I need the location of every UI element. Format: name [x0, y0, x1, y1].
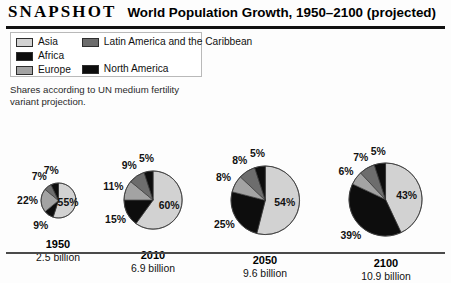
legend-swatch-africa	[16, 52, 33, 61]
pie-label-africa-2050: 25%	[214, 219, 235, 230]
header-rule	[6, 26, 445, 29]
legend-label-europe: Europe	[38, 64, 71, 76]
pie-1950: 55%9%22%7%7%	[39, 181, 78, 220]
caption-year-1950: 1950	[36, 238, 80, 251]
pie-label-north-america-1950: 7%	[44, 165, 59, 176]
pie-label-africa-2100: 39%	[341, 230, 362, 241]
legend-item-africa: Africa	[16, 50, 71, 63]
pie-caption-1950: 19502.5 billion	[36, 238, 80, 264]
pie-label-europe-2010: 11%	[103, 180, 123, 191]
pie-caption-2100: 210010.9 billion	[361, 257, 411, 283]
pie-chart-2050: 54%25%8%8%5%20509.6 billion	[229, 164, 302, 237]
caption-population-2010: 6.9 billion	[131, 262, 175, 275]
pie-label-africa-2010: 15%	[105, 214, 126, 225]
legend-item-europe: Europe	[16, 64, 71, 77]
pie-caption-2050: 20509.6 billion	[243, 254, 287, 280]
legend-swatch-north-america	[82, 65, 99, 74]
pie-label-latin-america-2010: 9%	[122, 160, 137, 171]
pie-label-europe-1950: 22%	[17, 195, 38, 206]
legend-swatch-asia	[16, 38, 33, 47]
pie-label-latin-america-2100: 7%	[353, 152, 368, 163]
pie-label-north-america-2050: 5%	[250, 148, 265, 159]
legend-swatch-europe	[16, 66, 33, 75]
legend-column-left: Asia Africa Europe	[16, 36, 71, 77]
legend-label-africa: Africa	[38, 50, 64, 62]
pie-label-asia-1950: 55%	[58, 196, 79, 207]
caption-year-2100: 2100	[361, 257, 411, 270]
legend-item-asia: Asia	[16, 36, 71, 49]
caption-year-2050: 2050	[243, 254, 287, 267]
pie-label-north-america-2100: 5%	[371, 146, 386, 157]
pie-2100: 43%39%6%7%5%	[347, 161, 424, 238]
caption-year-2010: 2010	[131, 249, 175, 262]
footer-rule	[6, 252, 445, 254]
pie-label-asia-2100: 43%	[396, 190, 417, 201]
page-title: World Population Growth, 1950–2100 (proj…	[127, 6, 436, 19]
legend-label-asia: Asia	[38, 36, 58, 48]
pie-label-asia-2010: 60%	[159, 200, 180, 211]
legend-label-north-america: North America	[104, 63, 169, 75]
pie-chart-1950: 55%9%22%7%7%19502.5 billion	[39, 181, 78, 220]
pie-chart-2010: 60%15%11%9%5%20106.9 billion	[122, 169, 184, 231]
pie-label-africa-1950: 9%	[33, 220, 48, 231]
legend-item-north-america: North America	[82, 63, 252, 76]
kicker-snapshot: SNAPSHOT	[8, 3, 116, 20]
pie-chart-2100: 43%39%6%7%5%210010.9 billion	[347, 161, 424, 238]
caption-population-2050: 9.6 billion	[243, 267, 287, 280]
pie-label-latin-america-2050: 8%	[232, 155, 247, 166]
legend-swatch-latin-america	[82, 38, 99, 47]
legend-item-latin-america: Latin America and the Caribbean	[82, 36, 252, 62]
pie-label-europe-2050: 8%	[216, 172, 231, 183]
pie-2010: 60%15%11%9%5%	[122, 169, 184, 231]
pie-label-asia-2050: 54%	[274, 197, 295, 208]
legend-label-latin-america: Latin America and the Caribbean	[104, 36, 252, 49]
pie-label-europe-2100: 6%	[338, 165, 353, 176]
legend: Asia Africa Europe Latin America and the…	[10, 32, 202, 77]
caption-population-2100: 10.9 billion	[361, 270, 411, 283]
pie-chart-row: 55%9%22%7%7%19502.5 billion60%15%11%9%5%…	[0, 100, 451, 252]
pie-label-north-america-2010: 5%	[139, 153, 154, 164]
pie-2050: 54%25%8%8%5%	[229, 164, 302, 237]
header: SNAPSHOT World Population Growth, 1950–2…	[8, 3, 443, 27]
legend-column-right: Latin America and the Caribbean North Am…	[82, 36, 252, 77]
